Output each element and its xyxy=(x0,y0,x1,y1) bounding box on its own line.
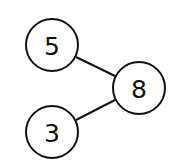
node-3: 3 xyxy=(26,106,78,158)
tree-diagram: 5 8 3 xyxy=(0,0,176,161)
node-5-label: 5 xyxy=(44,32,60,61)
edge-5-to-8 xyxy=(76,57,115,76)
node-8-label: 8 xyxy=(131,75,147,104)
edge-3-to-8 xyxy=(76,100,115,120)
node-3-label: 3 xyxy=(44,119,60,148)
node-5: 5 xyxy=(26,19,78,71)
node-8: 8 xyxy=(113,62,165,114)
